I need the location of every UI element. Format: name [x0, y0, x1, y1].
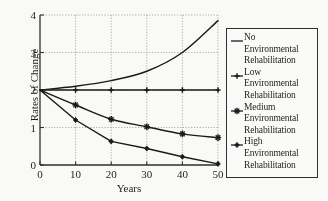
- legend-label-line: No: [244, 32, 299, 44]
- legend-label: HighEnvironmentalRehabilitation: [244, 136, 299, 171]
- legend-label-line: Environmental: [244, 148, 299, 160]
- legend-label: MediumEnvironmentalRehabilitation: [244, 102, 299, 137]
- x-tick-label: 0: [37, 169, 43, 180]
- data-series: [40, 87, 221, 93]
- x-tick-label: 10: [70, 169, 81, 180]
- legend-marker-plus-icon: [230, 68, 244, 80]
- plot-svg: [40, 15, 218, 165]
- chart-figure: Rates of Change 43210 01020304050 Years …: [0, 0, 328, 201]
- legend-items: NoEnvironmentalRehabilitationLowEnvironm…: [230, 32, 315, 171]
- series-line: [40, 90, 218, 138]
- data-marker-diamond: [180, 154, 185, 159]
- x-tick-label: 40: [177, 169, 188, 180]
- y-tick-label: 0: [31, 160, 37, 171]
- data-series-layer: [40, 21, 221, 167]
- data-marker-diamond: [109, 139, 114, 144]
- series-line: [40, 21, 218, 90]
- legend-marker-none-icon: [230, 33, 244, 45]
- legend-label-line: Rehabilitation: [244, 55, 299, 67]
- legend-entry: NoEnvironmentalRehabilitation: [230, 32, 315, 67]
- legend-entry: HighEnvironmentalRehabilitation: [230, 136, 315, 171]
- data-series: [40, 90, 221, 141]
- legend-entry: MediumEnvironmentalRehabilitation: [230, 102, 315, 137]
- x-tick-label: 30: [141, 169, 152, 180]
- legend-label: LowEnvironmentalRehabilitation: [244, 67, 299, 102]
- x-axis-title: Years: [40, 182, 218, 194]
- legend-marker-star-icon: [230, 103, 244, 115]
- legend-label-line: Medium: [244, 102, 299, 114]
- legend-label-line: Rehabilitation: [244, 160, 299, 172]
- x-tick-label: 50: [213, 169, 224, 180]
- legend-label-line: Low: [244, 67, 299, 79]
- legend-entry: LowEnvironmentalRehabilitation: [230, 67, 315, 102]
- y-tick-label: 1: [31, 122, 37, 133]
- legend-label-line: Environmental: [244, 78, 299, 90]
- legend-label-line: High: [244, 136, 299, 148]
- x-tick-label: 20: [106, 169, 117, 180]
- legend-box: NoEnvironmentalRehabilitationLowEnvironm…: [226, 28, 318, 178]
- legend-label-line: Rehabilitation: [244, 90, 299, 102]
- legend-label-line: Environmental: [244, 44, 299, 56]
- legend-label: NoEnvironmentalRehabilitation: [244, 32, 299, 67]
- data-marker-diamond: [216, 161, 221, 166]
- plot-area: 43210 01020304050: [40, 15, 218, 165]
- data-marker-diamond: [145, 146, 150, 151]
- legend-label-line: Rehabilitation: [244, 125, 299, 137]
- y-tick-label: 2: [31, 85, 37, 96]
- y-axis-title-container: Rates of Change: [0, 20, 18, 150]
- legend-marker-diamond-icon: [230, 137, 244, 149]
- y-tick-label: 4: [31, 10, 37, 21]
- legend-label-line: Environmental: [244, 113, 299, 125]
- data-series: [40, 21, 218, 90]
- y-tick-label: 3: [31, 47, 37, 58]
- data-marker-diamond: [235, 143, 240, 148]
